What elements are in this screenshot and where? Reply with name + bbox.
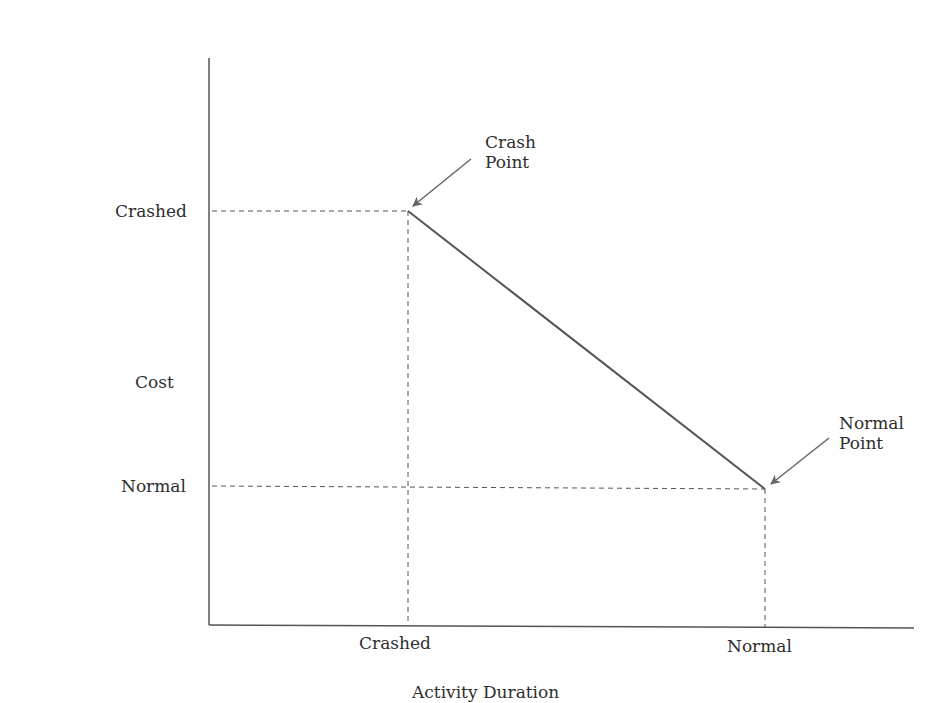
normal-point-annotation-line1: Normal: [839, 413, 904, 433]
normal-point-arrow: [771, 438, 829, 484]
x-axis: [209, 625, 914, 628]
cost-slope-line: [408, 211, 765, 489]
crash-point-arrow: [413, 159, 471, 206]
y-tick-crashed: Crashed: [115, 201, 187, 221]
y-tick-normal: Normal: [121, 476, 186, 496]
x-tick-normal: Normal: [727, 636, 792, 656]
normal-point-annotation-line2: Point: [839, 433, 883, 453]
x-tick-crashed: Crashed: [359, 633, 431, 653]
x-axis-label: Activity Duration: [412, 682, 559, 702]
crash-point-annotation-line1: Crash: [485, 132, 536, 152]
crash-point-annotation-line2: Point: [485, 152, 529, 172]
chart-canvas: [0, 0, 944, 703]
y-axis-label: Cost: [135, 372, 174, 392]
